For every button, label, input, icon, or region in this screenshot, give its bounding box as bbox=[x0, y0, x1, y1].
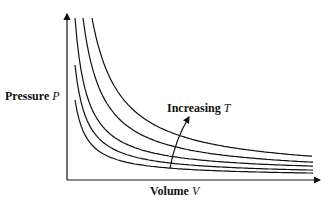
isotherm-curve-5 bbox=[92, 18, 312, 156]
pv-diagram: Pressure P Volume V Increasing T bbox=[0, 0, 330, 204]
increasing-t-label: Increasing T bbox=[167, 101, 232, 115]
x-axis-label: Volume V bbox=[150, 184, 201, 198]
isotherm-curve-3 bbox=[75, 18, 313, 166]
isotherm-curve-2 bbox=[75, 65, 313, 170]
y-axis-label: Pressure P bbox=[5, 89, 60, 103]
increasing-t-arrow bbox=[170, 117, 189, 168]
